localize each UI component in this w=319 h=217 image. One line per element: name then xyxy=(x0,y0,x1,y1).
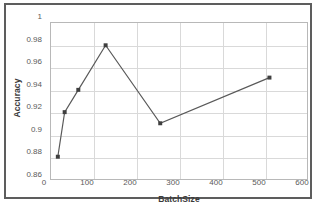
x-tick-label: 100 xyxy=(80,179,93,187)
y-tick-label: 0.96 xyxy=(26,58,42,66)
x-tick-label: 200 xyxy=(123,179,136,187)
data-point-marker xyxy=(158,121,162,125)
data-point-marker xyxy=(76,88,80,92)
x-axis-title: BatchSize xyxy=(50,194,308,204)
data-point-marker xyxy=(267,76,271,80)
data-point-marker xyxy=(63,110,67,114)
y-tick-label: 1 xyxy=(38,13,42,21)
series-line xyxy=(58,45,270,156)
x-axis-tick-labels: 0100200300400500600 xyxy=(0,179,319,191)
plot-area xyxy=(50,22,308,180)
y-tick-label: 0.86 xyxy=(26,171,42,179)
x-tick-label: 400 xyxy=(209,179,222,187)
data-point-marker xyxy=(56,155,60,159)
x-tick-label: 600 xyxy=(295,179,308,187)
chart-figure: Accuracy BatchSize 0.860.880.90.920.940.… xyxy=(0,0,319,217)
gridline-vertical xyxy=(309,23,310,179)
x-tick-label: 500 xyxy=(252,179,265,187)
y-tick-label: 0.9 xyxy=(31,126,42,134)
x-tick-label: 0 xyxy=(42,179,46,187)
x-tick-label: 300 xyxy=(166,179,179,187)
y-tick-label: 0.94 xyxy=(26,81,42,89)
figure-border: Accuracy BatchSize xyxy=(4,3,312,199)
data-point-marker xyxy=(104,43,108,47)
y-tick-label: 0.88 xyxy=(26,148,42,156)
y-tick-label: 0.98 xyxy=(26,36,42,44)
accuracy-line-series xyxy=(51,23,307,179)
y-tick-label: 0.92 xyxy=(26,103,42,111)
